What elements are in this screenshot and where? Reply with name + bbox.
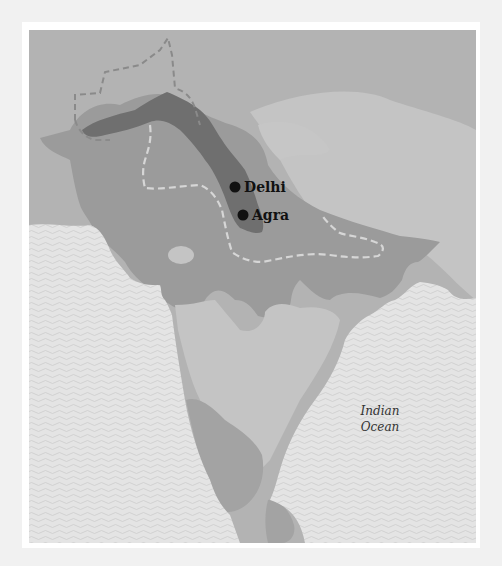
city-label-delhi: Delhi (244, 180, 286, 194)
map-graphic (29, 30, 476, 543)
ocean-label-line1: Indian (355, 403, 405, 419)
ocean-label-line2: Ocean (355, 419, 405, 435)
map-canvas[interactable]: Delhi Agra Indian Ocean (29, 30, 476, 543)
city-label-agra: Agra (252, 208, 289, 222)
city-marker-agra (238, 210, 249, 221)
ocean-label-indian-ocean: Indian Ocean (355, 403, 405, 435)
light-patch-west (168, 246, 194, 264)
city-marker-delhi (230, 182, 241, 193)
